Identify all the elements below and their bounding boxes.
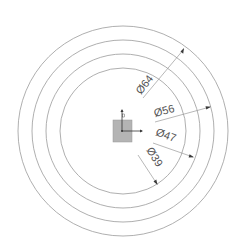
dimension-label-56: Ø56 [152,102,175,119]
origin-point [121,130,123,132]
arrow-head-icon [154,180,158,185]
drawing-canvas: Ø64 Ø56 Ø47 Ø39 [0,0,241,251]
y-axis-label-marker [123,114,125,117]
dimension-label-47: Ø47 [154,126,178,144]
dimension-39[interactable]: Ø39 [138,145,166,185]
dimension-label-39: Ø39 [144,145,165,169]
arrow-head-icon [189,154,194,157]
arrow-head-icon [206,106,212,109]
dimension-64[interactable]: Ø64 [133,48,184,98]
diagram-svg: Ø64 Ø56 Ø47 Ø39 [0,0,241,251]
x-axis-arrow-icon [140,130,143,133]
dimension-label-64: Ø64 [133,72,155,96]
y-axis-arrow-icon [121,109,124,112]
dimension-56[interactable]: Ø56 [152,102,211,122]
